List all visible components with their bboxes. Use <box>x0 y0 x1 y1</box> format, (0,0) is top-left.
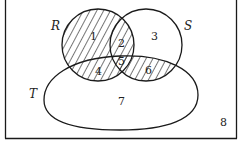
region-label-5: 5 <box>118 55 125 68</box>
region-label-7: 7 <box>118 95 125 108</box>
region-label-6: 6 <box>145 64 152 77</box>
region-label-4: 4 <box>95 65 102 78</box>
region-label-8: 8 <box>220 116 227 129</box>
region-label-1: 1 <box>90 30 97 43</box>
set-label-S: S <box>184 19 192 33</box>
region-label-2: 2 <box>118 37 125 50</box>
set-label-T: T <box>29 87 38 101</box>
venn-diagram: R S T 1 2 3 4 5 6 7 8 <box>0 0 243 145</box>
set-label-R: R <box>50 19 60 33</box>
region-label-3: 3 <box>151 30 158 43</box>
